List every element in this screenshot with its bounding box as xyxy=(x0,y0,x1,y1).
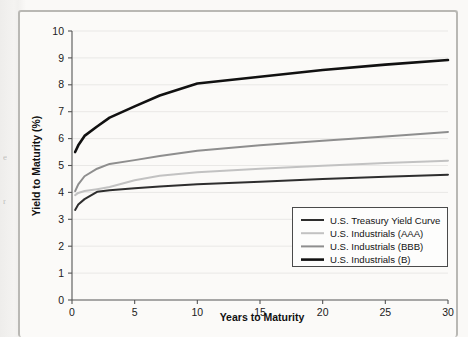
x-tick-label: 10 xyxy=(191,306,203,318)
y-tick-label: 4 xyxy=(58,186,64,198)
y-axis-ticks: 012345678910 xyxy=(52,25,72,306)
y-tick-label: 3 xyxy=(58,213,64,225)
legend-label-3: U.S. Industrials (BBB) xyxy=(330,241,423,252)
y-tick-label: 8 xyxy=(58,78,64,90)
y-tick-label: 7 xyxy=(58,105,64,117)
y-axis-title: Yield to Maturity (%) xyxy=(30,116,42,217)
legend-label-4: U.S. Industrials (B) xyxy=(330,254,411,265)
chart-legend: U.S. Treasury Yield CurveU.S. Industrial… xyxy=(293,208,448,267)
yield-curve-chart: 012345678910 051015202530 Years to Matur… xyxy=(0,0,468,337)
x-axis-title: Years to Maturity xyxy=(220,311,305,323)
x-tick-label: 0 xyxy=(69,306,75,318)
chart-canvas: 012345678910 051015202530 Years to Matur… xyxy=(0,0,468,337)
x-tick-label: 25 xyxy=(379,306,391,318)
y-tick-label: 5 xyxy=(58,159,64,171)
y-tick-label: 0 xyxy=(58,294,64,306)
data-series-group xyxy=(75,60,448,210)
legend-label-2: U.S. Industrials (AAA) xyxy=(330,228,423,239)
y-tick-label: 1 xyxy=(58,267,64,279)
y-tick-label: 6 xyxy=(58,132,64,144)
y-tick-label: 10 xyxy=(52,25,64,37)
x-tick-label: 20 xyxy=(317,306,329,318)
x-tick-label: 30 xyxy=(442,306,454,318)
y-tick-label: 9 xyxy=(58,52,64,64)
x-tick-label: 5 xyxy=(132,306,138,318)
legend-label-1: U.S. Treasury Yield Curve xyxy=(330,215,440,226)
y-tick-label: 2 xyxy=(58,240,64,252)
